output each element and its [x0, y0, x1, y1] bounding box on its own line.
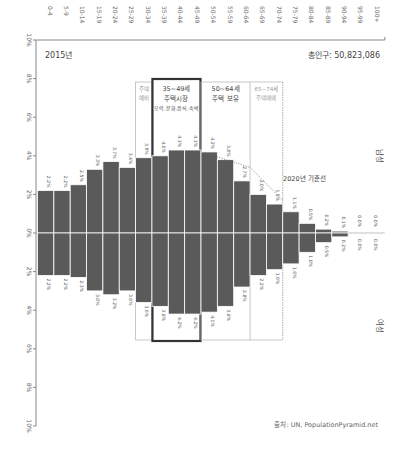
age-group-label: 85-89: [325, 6, 332, 24]
age-group-label: 90-94: [341, 6, 348, 24]
bar-male: [70, 185, 86, 233]
bar-female: [38, 233, 54, 275]
value-label-female: 2.2%: [46, 278, 51, 290]
bar-male: [201, 152, 217, 233]
age-group-label: 60-64: [243, 6, 250, 24]
annotation-text: 주택: [139, 86, 149, 93]
age-group-label: 95-99: [357, 6, 364, 24]
annotation-text: 오락,문화,음식,숙박: [154, 105, 199, 112]
y-tick-label: 2%: [26, 190, 33, 200]
age-group-label: 80-84: [308, 6, 315, 24]
age-group-label: 35-39: [161, 6, 168, 24]
value-label-male: 3.9%: [144, 143, 149, 155]
value-label-male: 3.3%: [95, 155, 100, 167]
bar-female: [315, 233, 331, 243]
value-label-female: 2.8%: [242, 290, 247, 302]
age-group-label: 75-79: [292, 6, 299, 24]
chart-title: 2015년: [45, 50, 72, 60]
source-note: 출처: UN, PopulationPyramid.net: [274, 420, 378, 429]
value-label-female: 3.8%: [226, 309, 231, 321]
bar-male: [87, 169, 103, 233]
y-tick-label: 4%: [26, 151, 33, 161]
bar-female: [185, 233, 201, 314]
bar-female: [283, 233, 299, 264]
gender-label-male: 남성: [375, 149, 384, 163]
bar-male: [168, 150, 184, 233]
bar-male: [266, 204, 282, 233]
age-group-label: 65-69: [259, 6, 266, 24]
value-label-female: 4.2%: [193, 317, 198, 329]
y-tick-label: 0%: [26, 228, 33, 238]
annotation-text: 주택시장: [164, 94, 188, 103]
bar-male: [250, 194, 266, 233]
bar-male: [38, 191, 54, 233]
total-population: 총인구: 50,823,086: [308, 50, 380, 60]
value-label-female: 0.5%: [324, 246, 329, 258]
annotation-text: 35~49세: [162, 84, 190, 93]
age-group-label: 45-49: [194, 6, 201, 24]
value-label-male: 2.2%: [46, 176, 51, 188]
bar-female: [250, 233, 266, 275]
age-group-label: 55-59: [227, 6, 234, 24]
value-label-female: 1.0%: [308, 255, 313, 267]
value-label-female: 4.1%: [210, 315, 215, 327]
bar-female: [152, 233, 168, 306]
value-label-female: 3.6%: [144, 305, 149, 317]
value-label-female: 3.2%: [112, 298, 117, 310]
value-label-female: 0.0%: [357, 239, 362, 251]
age-group-label: 15-19: [96, 6, 103, 24]
y-tick-label: 6%: [26, 112, 33, 122]
bar-male: [315, 229, 331, 233]
bar-male: [54, 191, 70, 233]
bar-female: [299, 233, 315, 252]
value-label-male: 1.5%: [275, 189, 280, 201]
value-label-male: 2.2%: [63, 176, 68, 188]
value-label-male: 2.0%: [259, 180, 264, 192]
value-label-female: 3.0%: [95, 294, 100, 306]
value-label-male: 3.8%: [226, 145, 231, 157]
bar-female: [266, 233, 282, 270]
bar-female: [234, 233, 250, 287]
value-label-female: 4.2%: [177, 317, 182, 329]
y-tick-label: 8%: [26, 383, 33, 393]
value-label-female: 2.2%: [63, 278, 68, 290]
value-label-male: 0.5%: [308, 209, 313, 221]
value-label-female: 2.2%: [259, 278, 264, 290]
bar-female: [54, 233, 70, 275]
y-tick-label: 10%: [26, 33, 33, 47]
bar-female: [87, 233, 103, 291]
value-label-male: 4.3%: [193, 135, 198, 147]
bar-female: [168, 233, 184, 314]
age-group-label: 30-34: [145, 6, 152, 24]
bar-female: [70, 233, 86, 277]
age-group-label: 0-4: [47, 6, 54, 16]
age-group-label: 5-9: [63, 6, 70, 16]
reference-line-label: 2020년 기준선: [283, 174, 326, 183]
annotation-text: 주택 보유: [212, 94, 238, 103]
bar-male: [103, 162, 119, 233]
value-label-male: 4.2%: [210, 137, 215, 149]
population-pyramid-chart: 10%8%6%4%2%0%2%4%6%8%10% 0-45-910-1415-1…: [0, 0, 405, 451]
gender-label-female: 여성: [375, 319, 385, 333]
bar-male: [119, 167, 135, 233]
age-group-label: 70-74: [276, 6, 283, 24]
bar-male: [299, 223, 315, 233]
bar-male: [185, 150, 201, 233]
y-tick-label: 10%: [26, 419, 33, 433]
value-label-female: 2.3%: [79, 280, 84, 292]
annotation-text: 예비: [139, 94, 149, 102]
value-label-male: 0.2%: [324, 214, 329, 226]
bar-female: [103, 233, 119, 295]
age-group-labels: 0-45-910-1415-1920-2425-2930-3435-3940-4…: [47, 6, 381, 24]
bar-female: [201, 233, 217, 312]
bar-male: [234, 181, 250, 233]
bar-female: [119, 233, 135, 291]
bar-male: [217, 160, 233, 233]
y-tick-label: 2%: [26, 267, 33, 277]
y-tick-label: 8%: [26, 74, 33, 84]
bar-female: [217, 233, 233, 306]
value-label-male: 2.5%: [79, 170, 84, 182]
value-label-female: 1.9%: [275, 273, 280, 285]
age-group-label: 50-54: [210, 6, 217, 24]
value-label-female: 1.6%: [292, 267, 297, 279]
